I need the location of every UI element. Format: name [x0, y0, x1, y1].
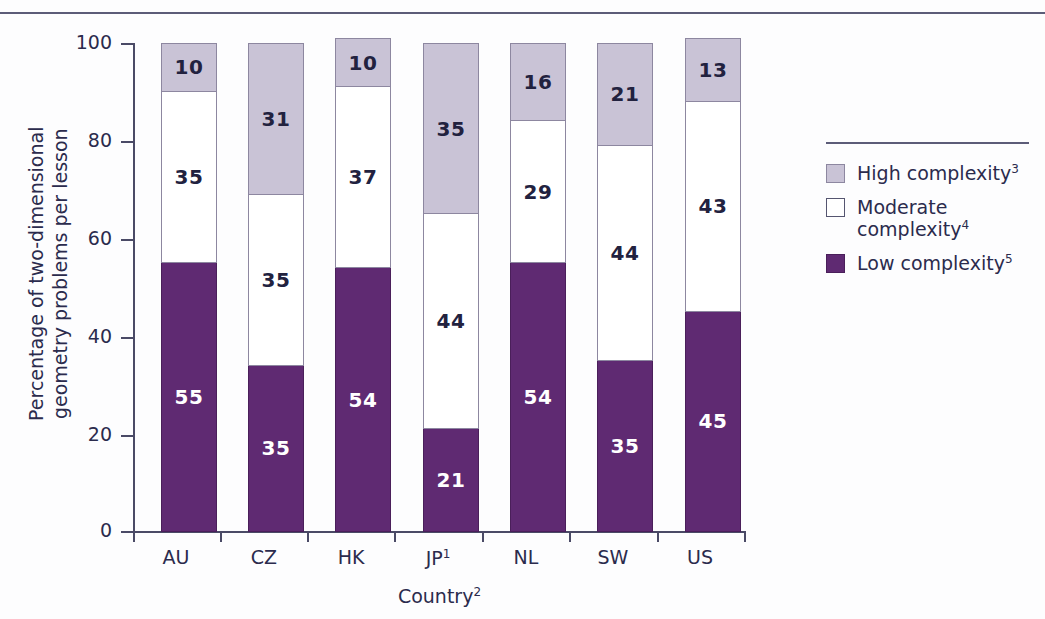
- bar-CZ-label-low: 35: [262, 438, 291, 458]
- x-label-SW: SW: [563, 548, 663, 567]
- x-label-SW-text: SW: [598, 546, 629, 568]
- legend-label-low-complexity-text: Low complexity: [857, 252, 1005, 274]
- bar-AU-segment-low[interactable]: 55: [161, 263, 217, 532]
- x-label-US: US: [650, 548, 750, 567]
- low-complexity-swatch-icon: [826, 254, 845, 273]
- bar-SW-label-high: 21: [611, 84, 640, 104]
- bar-AU-segment-moderate[interactable]: 35: [161, 92, 217, 263]
- bar-NL-segment-low[interactable]: 54: [510, 263, 566, 532]
- bar-US-segment-low[interactable]: 45: [685, 312, 741, 532]
- bar-SW-segment-moderate[interactable]: 44: [597, 146, 653, 361]
- x-label-CZ: CZ: [214, 548, 314, 567]
- x-label-CZ-text: CZ: [251, 546, 277, 568]
- bar-SW-segment-low[interactable]: 35: [597, 361, 653, 532]
- x-label-JP: JP1: [388, 548, 488, 568]
- x-axis-title: Country2: [133, 585, 746, 607]
- y-tick-80: [121, 141, 133, 143]
- bar-HK-label-moderate: 37: [349, 167, 378, 187]
- bar-SW-segment-high[interactable]: 21: [597, 43, 653, 146]
- bar-HK-segment-low[interactable]: 54: [335, 268, 391, 532]
- bar-NL-label-high: 16: [524, 72, 553, 92]
- bar-AU-label-low: 55: [175, 387, 204, 407]
- bar-HK-segment-high[interactable]: 10: [335, 38, 391, 87]
- x-tick-4: [482, 531, 484, 542]
- x-tick-1: [220, 531, 222, 542]
- legend-label-high-complexity: High complexity3: [857, 162, 1019, 185]
- bar-JP-label-low: 21: [437, 470, 466, 490]
- legend-label-moderate-complexity-text: Moderate complexity: [857, 196, 962, 241]
- x-label-AU-text: AU: [163, 546, 190, 568]
- bar-US-segment-high[interactable]: 13: [685, 38, 741, 102]
- y-tick-20: [121, 435, 133, 437]
- bar-AU-label-high: 10: [175, 57, 204, 77]
- x-label-NL: NL: [476, 548, 576, 567]
- x-tick-3: [394, 531, 396, 542]
- bar-HK-segment-moderate[interactable]: 37: [335, 87, 391, 268]
- bar-US[interactable]: 13 43 45: [685, 38, 741, 532]
- y-tick-label-20: 20: [58, 425, 112, 444]
- y-tick-label-60: 60: [58, 229, 112, 248]
- bar-NL-label-low: 54: [524, 387, 553, 407]
- y-tick-label-40: 40: [58, 327, 112, 346]
- y-tick-label-80: 80: [58, 131, 112, 150]
- x-label-HK-text: HK: [338, 546, 365, 568]
- bar-HK[interactable]: 10 37 54: [335, 38, 391, 532]
- x-tick-7: [744, 531, 746, 542]
- chart-page: Percentage of two-dimensional geometry p…: [0, 0, 1045, 619]
- bar-JP-segment-low[interactable]: 21: [423, 429, 479, 532]
- x-label-NL-text: NL: [514, 546, 539, 568]
- bar-CZ-segment-moderate[interactable]: 35: [248, 195, 304, 366]
- legend-item-high-complexity[interactable]: High complexity3: [826, 162, 1031, 185]
- bar-JP-label-moderate: 44: [437, 311, 466, 331]
- x-label-US-text: US: [687, 546, 713, 568]
- bar-HK-label-high: 10: [349, 53, 378, 73]
- bar-SW-label-low: 35: [611, 436, 640, 456]
- x-tick-0: [133, 531, 135, 542]
- bar-CZ-segment-low[interactable]: 35: [248, 366, 304, 532]
- y-tick-40: [121, 337, 133, 339]
- bar-JP-segment-moderate[interactable]: 44: [423, 214, 479, 429]
- x-axis-title-superscript: 2: [473, 585, 481, 599]
- legend-divider-rule: [826, 142, 1029, 144]
- bar-JP[interactable]: 35 44 21: [423, 43, 479, 532]
- x-label-JP-superscript: 1: [443, 547, 451, 561]
- bar-CZ-label-high: 31: [262, 109, 291, 129]
- bar-JP-segment-high[interactable]: 35: [423, 43, 479, 214]
- bar-SW[interactable]: 21 44 35: [597, 43, 653, 532]
- top-divider-rule: [0, 12, 1045, 14]
- plot-area: 10 35 55 31 35 35 10: [133, 43, 745, 532]
- bar-US-label-moderate: 43: [699, 196, 728, 216]
- bar-AU-label-moderate: 35: [175, 167, 204, 187]
- bar-US-segment-moderate[interactable]: 43: [685, 102, 741, 312]
- x-label-HK: HK: [301, 548, 401, 567]
- legend: High complexity3 Moderate complexity4 Lo…: [826, 142, 1031, 286]
- y-tick-60: [121, 239, 133, 241]
- x-label-JP-text: JP: [426, 547, 443, 569]
- bar-AU-segment-high[interactable]: 10: [161, 43, 217, 92]
- legend-item-low-complexity[interactable]: Low complexity5: [826, 252, 1031, 275]
- legend-item-moderate-complexity[interactable]: Moderate complexity4: [826, 196, 1031, 241]
- legend-label-moderate-complexity-superscript: 4: [962, 218, 970, 232]
- bar-CZ-label-moderate: 35: [262, 270, 291, 290]
- bar-NL[interactable]: 16 29 54: [510, 43, 566, 532]
- high-complexity-swatch-icon: [826, 164, 845, 183]
- y-axis-title-line-2: geometry problems per lesson: [49, 128, 71, 419]
- x-tick-5: [569, 531, 571, 542]
- bar-CZ-segment-high[interactable]: 31: [248, 43, 304, 195]
- legend-label-low-complexity-superscript: 5: [1005, 252, 1013, 266]
- x-axis-title-text: Country: [398, 585, 473, 607]
- y-tick-label-100: 100: [58, 33, 112, 52]
- bar-NL-segment-moderate[interactable]: 29: [510, 121, 566, 263]
- bar-SW-label-moderate: 44: [611, 243, 640, 263]
- bar-CZ[interactable]: 31 35 35: [248, 43, 304, 532]
- y-tick-0: [121, 531, 133, 533]
- x-tick-6: [657, 531, 659, 542]
- y-tick-100: [121, 43, 133, 45]
- y-axis-title-line-1: Percentage of two-dimensional: [25, 127, 47, 421]
- bar-NL-segment-high[interactable]: 16: [510, 43, 566, 121]
- legend-label-low-complexity: Low complexity5: [857, 252, 1013, 275]
- legend-label-moderate-complexity: Moderate complexity4: [857, 196, 1031, 241]
- bar-AU[interactable]: 10 35 55: [161, 43, 217, 532]
- bar-US-label-high: 13: [699, 60, 728, 80]
- legend-label-high-complexity-text: High complexity: [857, 162, 1011, 184]
